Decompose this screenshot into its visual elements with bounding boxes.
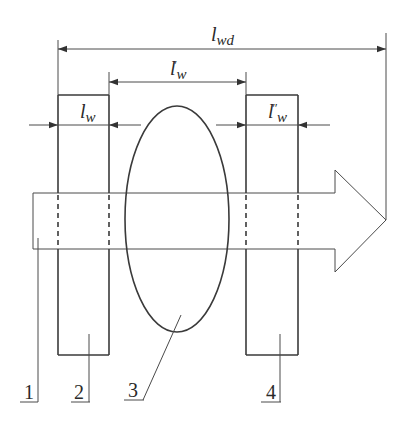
- callout-1: 1: [24, 382, 34, 402]
- callout-2: 2: [74, 382, 84, 402]
- right-block: [246, 95, 298, 355]
- flow-arrow: [33, 170, 386, 272]
- callout-3: 3: [128, 380, 138, 400]
- callout-4: 4: [266, 382, 276, 402]
- diagram-canvas: [0, 0, 411, 427]
- callout-leaders: [20, 238, 281, 402]
- left-block: [58, 95, 109, 355]
- label-lw-prime: l′w: [170, 58, 186, 82]
- dimension-lwd: [58, 33, 386, 220]
- label-lw: lw: [80, 101, 96, 125]
- label-lwd: lwd: [211, 24, 234, 48]
- label-lw-double-prime: l″w: [268, 101, 287, 125]
- ellipse-element: [125, 106, 229, 332]
